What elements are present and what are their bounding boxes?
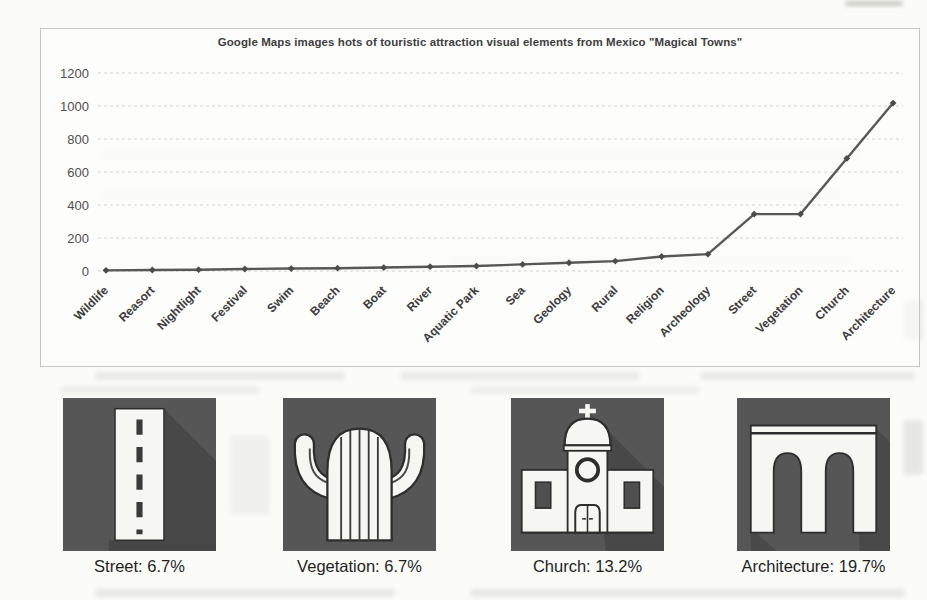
bleed-through-smudge bbox=[60, 386, 260, 394]
x-axis-category-label: Vegetation bbox=[753, 283, 806, 336]
vegetation-icon bbox=[283, 398, 436, 551]
data-point-marker bbox=[195, 266, 202, 273]
bleed-through-smudge bbox=[400, 372, 640, 380]
x-axis-category-label: Reasort bbox=[116, 283, 157, 324]
y-axis-tick-label: 1200 bbox=[60, 66, 89, 81]
y-axis-tick-label: 0 bbox=[82, 264, 89, 279]
scanned-paper-page: Google Maps images hots of touristic att… bbox=[0, 0, 927, 600]
x-axis-category-label: Street bbox=[725, 283, 759, 317]
y-axis-tick-label: 400 bbox=[67, 198, 89, 213]
architecture-percentage-label: Architecture: 19.7% bbox=[737, 557, 890, 576]
data-point-marker bbox=[519, 261, 526, 268]
x-axis-category-label: Rural bbox=[589, 283, 621, 315]
data-point-marker bbox=[612, 258, 619, 265]
icon-card-architecture: Architecture: 19.7% bbox=[737, 398, 890, 576]
line-chart: 020040060080010001200WildlifeReasortNigh… bbox=[41, 29, 919, 364]
x-axis-category-label: Geology bbox=[530, 283, 574, 327]
data-point-marker bbox=[473, 263, 480, 270]
x-axis-category-label: Sea bbox=[503, 283, 528, 308]
vegetation-percentage-label: Vegetation: 6.7% bbox=[283, 557, 436, 576]
data-point-marker bbox=[380, 264, 387, 271]
x-axis-category-label: Beach bbox=[307, 283, 342, 318]
data-series-line bbox=[106, 103, 893, 270]
icon-card-church: Church: 13.2% bbox=[511, 398, 664, 576]
x-axis-category-label: Nightlight bbox=[154, 283, 203, 332]
data-point-marker bbox=[566, 259, 573, 266]
y-axis-tick-label: 800 bbox=[67, 132, 89, 147]
bleed-through-smudge bbox=[470, 386, 700, 394]
architecture-icon bbox=[737, 398, 890, 551]
bleed-through-smudge bbox=[470, 589, 905, 597]
x-axis-category-label: River bbox=[404, 283, 435, 314]
y-axis-tick-label: 200 bbox=[67, 231, 89, 246]
bleed-through-smudge bbox=[95, 372, 345, 380]
data-point-marker bbox=[149, 267, 156, 274]
bleed-through-smudge bbox=[700, 372, 915, 380]
bleed-through-smudge bbox=[230, 435, 270, 515]
street-icon bbox=[63, 398, 216, 551]
data-point-marker bbox=[288, 265, 295, 272]
data-point-marker bbox=[427, 263, 434, 270]
icon-card-street: Street: 6.7% bbox=[63, 398, 216, 576]
y-axis-tick-label: 600 bbox=[67, 165, 89, 180]
x-axis-category-label: Boat bbox=[360, 283, 389, 312]
x-axis-category-label: Swim bbox=[264, 283, 296, 315]
data-point-marker bbox=[658, 253, 665, 260]
x-axis-category-label: Wildlife bbox=[71, 283, 111, 323]
bleed-through-smudge bbox=[95, 589, 395, 597]
bleed-through-smudge bbox=[845, 1, 903, 6]
line-chart-panel: Google Maps images hots of touristic att… bbox=[40, 28, 920, 367]
street-percentage-label: Street: 6.7% bbox=[63, 557, 216, 576]
y-axis-tick-label: 1000 bbox=[60, 99, 89, 114]
x-axis-category-label: Festival bbox=[209, 283, 251, 325]
church-percentage-label: Church: 13.2% bbox=[511, 557, 664, 576]
x-axis-category-label: Church bbox=[812, 283, 852, 323]
data-point-marker bbox=[103, 267, 110, 274]
x-axis-category-label: Religion bbox=[623, 283, 666, 326]
bleed-through-smudge bbox=[903, 420, 923, 475]
icon-card-vegetation: Vegetation: 6.7% bbox=[283, 398, 436, 576]
church-icon bbox=[511, 398, 664, 551]
